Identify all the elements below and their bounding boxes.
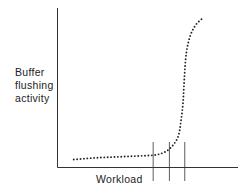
curve-dot — [141, 155, 143, 157]
curve-dot — [183, 79, 185, 81]
curve-dot — [178, 133, 180, 135]
curve-dot — [182, 99, 184, 101]
curve-dot — [114, 156, 116, 158]
curve-dot — [189, 35, 191, 37]
curve-dot — [183, 92, 185, 94]
curve-dot — [73, 159, 75, 161]
curve-dot — [130, 155, 132, 157]
curve-dot — [181, 116, 183, 118]
curve-dot — [201, 18, 203, 20]
curve-dot — [90, 157, 92, 159]
curve-dot — [176, 139, 178, 141]
curve-dot — [181, 113, 183, 115]
curve-dot — [184, 75, 186, 77]
curve-dot — [80, 158, 82, 160]
curve-dot — [187, 45, 189, 47]
curve-dot — [182, 96, 184, 98]
curve-dot — [169, 147, 171, 149]
curve-dot — [185, 58, 187, 60]
curve-dot — [137, 155, 139, 157]
curve-dot — [97, 157, 99, 159]
curve-dot — [158, 153, 160, 155]
curve-dot — [184, 72, 186, 74]
curve-dot — [144, 155, 146, 157]
curve-dot — [183, 89, 185, 91]
curve-dot — [134, 155, 136, 157]
curve-dot — [180, 119, 182, 121]
curve-dot — [183, 82, 185, 84]
curve-dot — [107, 156, 109, 158]
curve-dot — [190, 32, 192, 34]
curve-dot — [172, 145, 174, 147]
curve-dot — [110, 156, 112, 158]
curve-dot — [183, 85, 185, 87]
curve-dot — [103, 156, 105, 158]
curve-dot — [192, 29, 194, 31]
y-axis-label-line: flushing — [15, 79, 54, 92]
curve-dot — [83, 158, 85, 160]
curve-dot — [161, 152, 163, 154]
curve-dot — [100, 157, 102, 159]
curve-dot — [127, 155, 129, 157]
curve-dot — [180, 123, 182, 125]
curve-dot — [185, 55, 187, 57]
curve-dot — [194, 26, 196, 28]
y-axis-label-line: activity — [15, 92, 54, 105]
curve-dot — [93, 157, 95, 159]
y-axis-label-line: Buffer — [15, 66, 54, 79]
curve-dot — [86, 157, 88, 159]
curve-dot — [179, 129, 181, 131]
curve-dot — [154, 154, 156, 156]
curve-dot — [120, 156, 122, 158]
curve-dot — [147, 155, 149, 157]
curve-dot — [186, 48, 188, 50]
curve-dot — [184, 65, 186, 67]
curve-dot — [124, 156, 126, 158]
curve-dot — [182, 106, 184, 108]
curve-dot — [179, 126, 181, 128]
curve-dot — [177, 136, 179, 138]
curve-dot — [117, 156, 119, 158]
curve-dot — [184, 68, 186, 70]
curve-dot — [151, 154, 153, 156]
curve-dot — [167, 149, 169, 151]
curve-dot — [188, 38, 190, 40]
x-axis-label: Workload — [96, 173, 143, 185]
curve-dot — [164, 151, 166, 153]
curve-dot — [187, 41, 189, 43]
curve-dot — [196, 23, 198, 25]
curve-dot — [174, 142, 176, 144]
curve-dot — [185, 51, 187, 53]
curve-dot — [182, 102, 184, 104]
curve-dot — [181, 109, 183, 111]
curve-dot — [76, 158, 78, 160]
y-axis-label: Buffer flushing activity — [15, 66, 54, 105]
curve-dot — [198, 21, 200, 23]
curve-dot — [184, 62, 186, 64]
